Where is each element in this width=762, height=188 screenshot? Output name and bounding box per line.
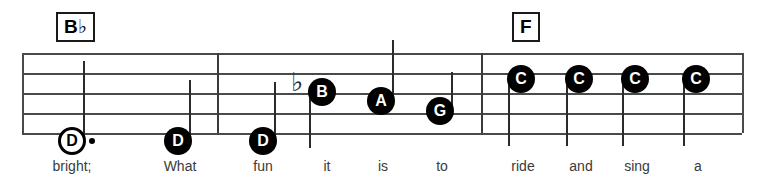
lyric-4: it: [324, 158, 331, 174]
note-d-1-augmentation-dot: [89, 138, 95, 144]
lyric-1: bright;: [53, 158, 92, 174]
note-c-4: C: [682, 65, 710, 93]
lyric-7: ride: [511, 158, 534, 174]
barline-1: [217, 53, 219, 133]
note-d-3: D: [249, 127, 277, 155]
lyric-2: What: [164, 158, 197, 174]
lyric-8: and: [569, 158, 592, 174]
chord-bb-accidental: ♭: [78, 17, 87, 36]
chord-f-label: F: [520, 17, 532, 36]
note-c-4-stem: [683, 79, 685, 146]
note-b-flat: B: [308, 78, 336, 106]
lyric-10: a: [694, 158, 702, 174]
note-d-1: D: [58, 127, 86, 155]
lyric-3: fun: [253, 158, 272, 174]
note-c-2: C: [565, 65, 593, 93]
lyric-6: to: [436, 158, 448, 174]
chord-f: F: [512, 12, 540, 42]
note-c-1-stem: [508, 79, 510, 146]
chord-bb-label: B: [64, 17, 78, 36]
chord-bb: B♭: [56, 12, 95, 42]
music-notation-sheet: DDD♭BAGCCCCB♭Fbright;Whatfunitistoridean…: [0, 0, 762, 188]
note-b-flat-accidental: ♭: [291, 70, 303, 96]
barline-2: [481, 53, 483, 133]
lyric-5: is: [378, 158, 388, 174]
note-d-2: D: [164, 127, 192, 155]
lyric-9: sing: [624, 158, 650, 174]
note-c-2-stem: [566, 79, 568, 146]
note-a: A: [367, 87, 395, 115]
note-c-3-stem: [622, 79, 624, 146]
note-c-1: C: [507, 65, 535, 93]
staff-left-edge: [22, 53, 24, 133]
note-d-1-stem: [83, 61, 85, 141]
staff-line: [22, 53, 742, 55]
staff-right-edge: [742, 53, 744, 133]
staff-line: [22, 133, 742, 135]
note-c-3: C: [621, 65, 649, 93]
note-g: G: [426, 97, 454, 125]
